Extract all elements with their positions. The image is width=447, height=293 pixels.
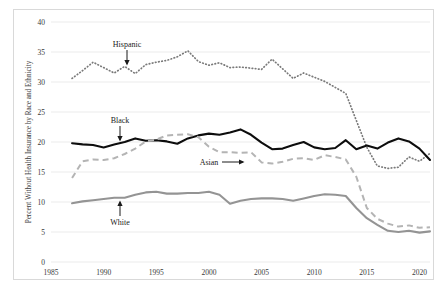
- annotation-arrow-head: [124, 60, 129, 66]
- x-tick-label: 1995: [149, 268, 164, 277]
- series-line-black: [72, 129, 430, 160]
- y-tick-label: 20: [38, 138, 46, 147]
- annotation-arrow-head: [117, 201, 122, 207]
- x-axis-tick-labels: 19851990199520002005201020152020: [44, 268, 428, 277]
- x-tick-label: 1985: [44, 268, 59, 277]
- x-tick-label: 2020: [412, 268, 427, 277]
- y-axis-title: Percent Without Health Insurance by Race…: [25, 60, 33, 223]
- chart-figure: 0510152025303540 19851990199520002005201…: [0, 0, 447, 293]
- x-tick-label: 2000: [201, 268, 216, 277]
- x-tick-label: 2010: [307, 268, 322, 277]
- y-tick-label: 5: [41, 228, 45, 237]
- y-tick-label: 30: [38, 78, 46, 87]
- line-chart: 0510152025303540 19851990199520002005201…: [0, 0, 447, 293]
- x-tick-label: 2005: [254, 268, 269, 277]
- y-tick-label: 0: [41, 258, 45, 267]
- y-tick-label: 40: [38, 18, 46, 27]
- x-tick-label: 2015: [359, 268, 374, 277]
- y-tick-label: 15: [38, 168, 46, 177]
- series-line-hispanic: [72, 51, 430, 169]
- annotation-arrow-head: [117, 136, 122, 142]
- y-tick-label: 25: [38, 108, 46, 117]
- y-axis-tick-labels: 0510152025303540: [38, 18, 46, 267]
- annotation-label-white: White: [110, 218, 130, 227]
- x-tick-label: 1990: [96, 268, 111, 277]
- gridlines: [51, 22, 430, 262]
- y-axis-label: Percent Without Health Insurance by Race…: [25, 60, 33, 223]
- annotation-label-black: Black: [111, 116, 130, 125]
- y-tick-label: 10: [38, 198, 46, 207]
- annotation-label-hispanic: Hispanic: [113, 40, 142, 49]
- annotation-label-asian: Asian: [200, 158, 219, 167]
- annotation-arrow-head: [239, 159, 245, 164]
- y-tick-label: 35: [38, 48, 46, 57]
